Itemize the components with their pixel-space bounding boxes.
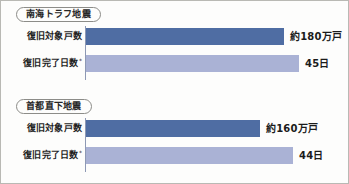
bar-households bbox=[86, 28, 284, 45]
bar-row-households-nankai: 復旧対象戸数 約180万戸 bbox=[1, 28, 349, 45]
bar-value-label: 約180万戸 bbox=[290, 28, 342, 45]
bar-row-days-tokyo: 復旧完了日数* 44日 bbox=[1, 147, 349, 164]
bar-row-label-text: 復旧対象戸数 bbox=[27, 124, 82, 133]
footnote-marker-icon: * bbox=[79, 150, 82, 156]
bar-value-text: 約180万戸 bbox=[290, 32, 342, 42]
panel-nankai-trough-earthquake: 南海トラフ地震 復旧対象戸数 約180万戸 復旧完了日数* 45日 bbox=[1, 1, 349, 93]
bar-row-label: 復旧完了日数* bbox=[23, 55, 82, 72]
bar-chart-tokyo: 復旧対象戸数 約160万戸 復旧完了日数* 44日 bbox=[1, 117, 349, 175]
bar-row-label-text: 復旧対象戸数 bbox=[27, 32, 82, 41]
bar-row-label: 復旧対象戸数 bbox=[27, 120, 82, 137]
bar-row-label: 復旧対象戸数 bbox=[27, 28, 82, 45]
bar-value-label: 44日 bbox=[299, 147, 324, 164]
bar-value-label: 45日 bbox=[305, 55, 330, 72]
bar-days bbox=[86, 55, 299, 72]
panel-tokyo-inland-earthquake: 首都直下地震 復旧対象戸数 約160万戸 復旧完了日数* 44日 bbox=[1, 93, 349, 184]
bar-value-label: 約160万戸 bbox=[266, 120, 318, 137]
panel-header-label: 南海トラフ地震 bbox=[26, 10, 91, 19]
bar-chart-nankai: 復旧対象戸数 約180万戸 復旧完了日数* 45日 bbox=[1, 25, 349, 83]
bar-row-label-text: 復旧完了日数 bbox=[23, 151, 78, 160]
bar-row-label-text: 復旧完了日数 bbox=[23, 59, 78, 68]
bar-row-label: 復旧完了日数* bbox=[23, 147, 82, 164]
bar-value-text: 約160万戸 bbox=[266, 124, 318, 134]
bar-row-households-tokyo: 復旧対象戸数 約160万戸 bbox=[1, 120, 349, 137]
bar-value-text: 44日 bbox=[299, 151, 324, 161]
panel-header-label: 首都直下地震 bbox=[26, 102, 82, 111]
panel-header-pill-nankai: 南海トラフ地震 bbox=[16, 7, 101, 22]
bar-households bbox=[86, 120, 260, 137]
bar-row-days-nankai: 復旧完了日数* 45日 bbox=[1, 55, 349, 72]
footnote-marker-icon: * bbox=[79, 58, 82, 64]
bar-value-text: 45日 bbox=[305, 59, 330, 69]
bar-days bbox=[86, 147, 293, 164]
panel-header-pill-tokyo: 首都直下地震 bbox=[16, 99, 92, 114]
earthquake-restoration-infographic: 南海トラフ地震 復旧対象戸数 約180万戸 復旧完了日数* 45日 bbox=[0, 0, 349, 184]
